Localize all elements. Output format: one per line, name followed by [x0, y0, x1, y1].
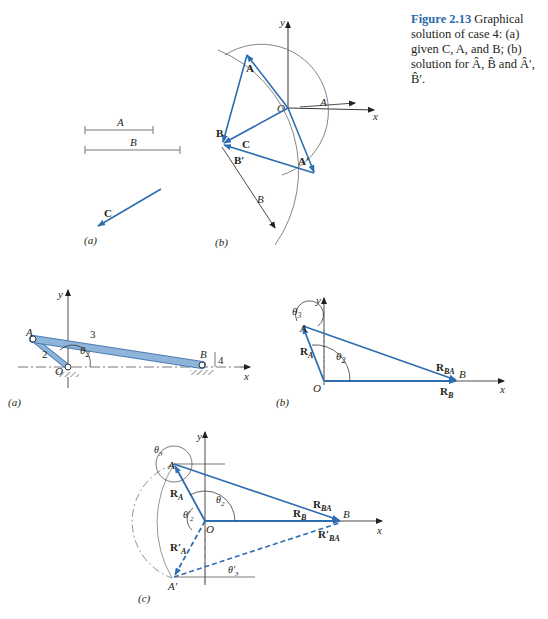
- middle-panel-a: y x A B O 2 3 4 θ2 (a): [8, 288, 250, 409]
- RA-label: RA: [300, 345, 314, 360]
- vector-C-label: C: [104, 207, 112, 219]
- y-axis-label: y: [279, 16, 285, 28]
- theta2-label: θ2: [216, 494, 225, 508]
- vector-C-label: C: [242, 138, 250, 150]
- top-panel-b: y x O A B A B C A′ B′ (b): [215, 16, 378, 249]
- panel-b-label: (b): [276, 396, 289, 409]
- x-axis-label: x: [372, 110, 378, 122]
- B-length-label: B: [257, 193, 264, 205]
- y-axis-label: y: [57, 288, 63, 300]
- RBA-prime-label: R′BA: [318, 528, 340, 543]
- figure-canvas: A B C (a) y x O A B A B C A′ B′ (b): [0, 0, 548, 619]
- theta3-label: θ3: [292, 305, 301, 320]
- joint-A-label: A: [25, 326, 33, 338]
- panel-b-label: (b): [215, 236, 228, 249]
- point-A-label: A: [299, 322, 307, 334]
- bottom-panel-c: y x A A′ B O θ3 θ2 θ′2 θ′3 RA R′A RBA R′…: [132, 430, 382, 605]
- top-panel-a: A B C (a): [84, 116, 180, 247]
- panel-a-label: (a): [8, 396, 21, 409]
- y-axis-label: y: [196, 430, 202, 442]
- point-B-label: B: [343, 508, 350, 520]
- link-3-label: 3: [90, 328, 96, 340]
- segment-B-label: B: [130, 136, 137, 148]
- origin-label: O: [313, 382, 321, 394]
- RBA-label: RBA: [313, 498, 332, 513]
- point-A-prime-label: A′: [167, 580, 178, 592]
- segment-A-label: A: [116, 116, 124, 128]
- panel-c-label: (c): [138, 592, 151, 605]
- origin-label: O: [206, 523, 214, 535]
- link-2-label: 2: [42, 348, 48, 360]
- vector-B-label: B: [216, 127, 224, 139]
- vector-A-label: A: [246, 62, 254, 74]
- RB-label: RB: [440, 385, 454, 400]
- joint-O-label: O: [55, 365, 63, 377]
- link-4-label: 4: [218, 354, 224, 366]
- middle-panel-b: y x A B O θ3 θ2 RA RBA RB (b): [276, 294, 505, 409]
- theta2-label: θ2: [336, 350, 345, 365]
- point-A-label: A: [167, 459, 175, 471]
- joint-B-label: B: [200, 348, 207, 360]
- vector-B-prime-label: B′: [234, 154, 244, 166]
- theta3-prime-label: θ′3: [228, 564, 239, 578]
- vector-A-prime-label: A′: [298, 155, 309, 167]
- RA-label: RA: [170, 487, 184, 502]
- point-B-label: B: [459, 368, 466, 380]
- x-axis-label: x: [499, 383, 505, 395]
- x-axis-label: x: [376, 524, 382, 536]
- panel-a-label: (a): [84, 234, 97, 247]
- x-axis-label: x: [243, 370, 249, 382]
- theta3-label: θ3: [154, 444, 163, 458]
- theta2-prime-label: θ′2: [183, 509, 194, 523]
- A-length-label: A: [319, 96, 327, 108]
- RA-prime-label: R′A: [170, 541, 187, 556]
- y-axis-label: y: [315, 294, 321, 306]
